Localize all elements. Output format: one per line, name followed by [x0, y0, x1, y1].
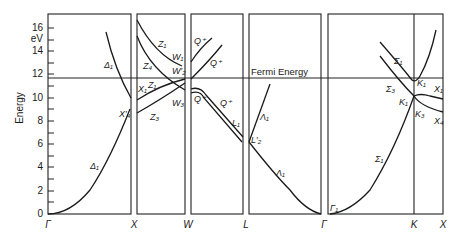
svg-text:Z₁: Z₁ [157, 39, 166, 49]
fermi-label: Fermi Energy [251, 66, 308, 77]
kpoint-gamma-1: Γ [45, 219, 52, 230]
svg-text:Δ₁: Δ₁ [103, 60, 113, 70]
bands-gamma-x [48, 32, 131, 214]
svg-text:Z₄: Z₄ [142, 61, 152, 71]
svg-text:Γ₁: Γ₁ [330, 203, 338, 213]
panel-gamma-k-x [328, 14, 443, 214]
tick-2: 2 [37, 185, 43, 196]
tick-6: 6 [37, 138, 43, 149]
svg-text:Q⁺: Q⁺ [194, 94, 207, 104]
tick-14: 14 [32, 45, 44, 56]
tick-16: 16 [32, 22, 44, 33]
svg-text:Z₃: Z₃ [149, 112, 159, 122]
svg-text:Z₁: Z₁ [147, 80, 156, 90]
kpoint-l: L [243, 219, 249, 230]
unit-ev: eV [31, 33, 44, 44]
kpoint-x-2: X [439, 219, 447, 230]
svg-text:Q⁺: Q⁺ [220, 98, 233, 108]
svg-text:Δ₁: Δ₁ [89, 161, 99, 171]
svg-text:W′₂: W′₂ [172, 66, 186, 76]
svg-text:X′₄: X′₄ [118, 109, 131, 119]
svg-text:X₁: X₁ [137, 84, 147, 94]
svg-text:W₁: W₁ [172, 52, 183, 62]
svg-text:K₃: K₃ [415, 109, 425, 119]
svg-text:K₁: K₁ [399, 97, 408, 107]
kpoint-k: K [411, 219, 419, 230]
svg-text:Λ₁: Λ₁ [275, 168, 285, 178]
tick-4: 4 [37, 161, 43, 172]
kpoint-x-1: X [130, 219, 138, 230]
tick-12: 12 [32, 68, 44, 79]
band-structure-diagram: Energy 16 eV 14 12 10 8 6 4 2 0 [0, 0, 464, 235]
svg-text:Q⁺: Q⁺ [194, 36, 207, 46]
svg-text:W₃: W₃ [172, 98, 184, 108]
tick-10: 10 [32, 92, 44, 103]
kpoint-gamma-2: Γ [321, 219, 328, 230]
svg-text:Λ₁: Λ₁ [259, 112, 269, 122]
svg-text:K₁: K₁ [417, 78, 426, 88]
bands-l-gamma [249, 84, 321, 214]
kpoint-w: W [183, 219, 194, 230]
k-point-labels: Γ X W L Γ K X [45, 219, 447, 230]
tick-0: 0 [37, 208, 43, 219]
svg-text:X₁: X₁ [433, 84, 443, 94]
y-axis-label: Energy [14, 92, 25, 124]
svg-text:X₄: X₄ [433, 116, 444, 126]
y-tick-labels: 16 eV 14 12 10 8 6 4 2 0 [31, 22, 44, 219]
band-labels: Δ₁ Δ₁ X′₄ Z₁ W₁ Z₄ W′₂ X₁ Z₁ W₃ Z₃ Q⁺ Q⁺… [89, 36, 444, 213]
svg-text:L′₂: L′₂ [251, 135, 262, 145]
svg-text:Σ₁: Σ₁ [374, 154, 383, 164]
svg-text:Σ₁: Σ₁ [393, 56, 402, 66]
y-ticks [48, 28, 54, 202]
tick-8: 8 [37, 115, 43, 126]
bands-gamma-k-x [330, 30, 443, 214]
svg-text:Σ₃: Σ₃ [385, 84, 395, 94]
svg-text:L₁: L₁ [232, 118, 240, 128]
svg-text:Q⁺: Q⁺ [210, 58, 223, 68]
